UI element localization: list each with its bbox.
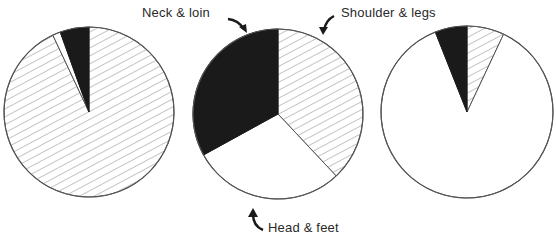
label-shoulder-legs: Shoulder & legs bbox=[341, 5, 436, 20]
arrow-head-feet bbox=[248, 208, 263, 230]
pie-charts bbox=[0, 0, 556, 252]
pie-right bbox=[381, 26, 553, 198]
pie-left bbox=[4, 27, 174, 197]
pie-center bbox=[193, 29, 363, 199]
label-head-feet: Head & feet bbox=[268, 220, 339, 235]
label-neck-loin: Neck & loin bbox=[142, 5, 210, 20]
arrow-shoulder-legs bbox=[319, 16, 334, 35]
arrow-neck-loin bbox=[228, 19, 247, 33]
